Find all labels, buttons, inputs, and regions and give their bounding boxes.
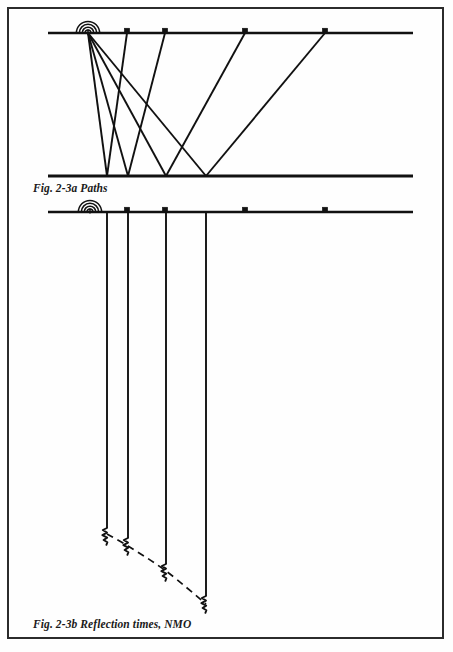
seismic-trace-3: [161, 212, 166, 581]
raypath-1-downgoing: [88, 33, 107, 176]
seismic-trace-4-reflection-wiggle: [201, 596, 206, 613]
raypath-3-upgoing: [166, 33, 245, 176]
seismic-trace-group: [102, 212, 206, 613]
raypath-1-upgoing: [107, 33, 127, 176]
receiver-geophone-3: [242, 28, 247, 33]
seismic-trace-3-reflection-wiggle: [161, 564, 166, 581]
receiver-geophone-3: [242, 207, 247, 212]
raypath-2-downgoing: [88, 33, 128, 176]
seismic-source-icon: [76, 21, 99, 34]
receiver-geophone-2: [162, 28, 167, 33]
receiver-geophone-1: [124, 28, 129, 33]
figure-2-3a: Fig. 2-3a Paths: [32, 21, 413, 195]
raypath-4-upgoing: [206, 33, 325, 176]
receiver-geophone-4: [322, 28, 327, 33]
seismic-trace-2-reflection-wiggle: [123, 538, 128, 555]
figure-2-3a-caption: Fig. 2-3a Paths: [32, 182, 108, 195]
seismic-trace-4: [201, 212, 206, 613]
seismic-trace-1-reflection-wiggle: [102, 528, 107, 545]
seismic-trace-1: [102, 212, 107, 545]
raypath-3: [88, 33, 245, 176]
seismic-diagram-svg: Fig. 2-3a Paths Fig. 2-3b Reflection tim…: [0, 0, 453, 652]
raypath-group: [88, 33, 325, 176]
figure-page: Fig. 2-3a Paths Fig. 2-3b Reflection tim…: [0, 0, 453, 652]
raypath-3-downgoing: [88, 33, 166, 176]
raypath-4-downgoing: [88, 33, 206, 176]
nmo-hyperbola-dashed-curve: [107, 534, 206, 604]
receiver-geophone-4: [322, 207, 327, 212]
page-border-frame: [8, 8, 443, 638]
figure-2-3b-caption: Fig. 2-3b Reflection times, NMO: [32, 618, 191, 631]
seismic-source-icon: [78, 200, 101, 213]
seismic-trace-2: [123, 212, 128, 555]
receiver-geophone-2: [162, 207, 167, 212]
receiver-geophone-1: [124, 207, 129, 212]
figure-2-3b: Fig. 2-3b Reflection times, NMO: [32, 200, 413, 631]
